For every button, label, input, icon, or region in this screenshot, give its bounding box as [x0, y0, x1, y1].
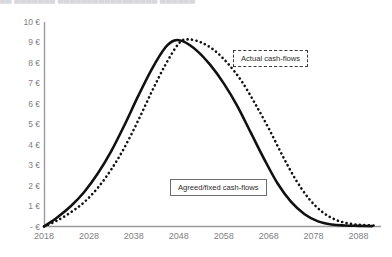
y-axis-tick-label: 6 €	[12, 99, 40, 109]
x-axis-tick-label: 2068	[246, 231, 292, 241]
legend-callout-actual-label: Actual cash-flows	[241, 54, 300, 63]
y-axis-tick-label: 10 €	[12, 17, 40, 27]
chart-plot-area	[0, 0, 392, 257]
y-axis-tick-label: 1 €	[12, 201, 40, 211]
x-axis-tick-label: 2058	[201, 231, 247, 241]
y-axis-tick-label: 8 €	[12, 58, 40, 68]
legend-callout-agreed-label: Agreed/fixed cash-flows	[178, 183, 259, 192]
legend-callout-agreed: Agreed/fixed cash-flows	[170, 179, 267, 196]
x-axis-tick-label: 2078	[291, 231, 337, 241]
y-axis-tick-label: 4 €	[12, 140, 40, 150]
x-axis-tick-label: 2028	[66, 231, 112, 241]
x-axis-tick-label: 2088	[336, 231, 382, 241]
y-axis-tick-label: 7 €	[12, 78, 40, 88]
y-axis-tick-label: 2 €	[12, 181, 40, 191]
x-axis-tick-label: 2048	[156, 231, 202, 241]
y-axis-tick-label: 9 €	[12, 37, 40, 47]
legend-callout-actual: Actual cash-flows	[233, 50, 308, 67]
y-axis-tick-labels: 10 €9 €8 €7 €6 €5 €4 €3 €2 €1 €- €	[8, 0, 40, 257]
x-axis-tick-label: 2038	[111, 231, 157, 241]
chart-series-group	[44, 39, 377, 226]
chart-container: ██ ███████ █████████████████ ██████ 10 €…	[0, 0, 392, 257]
chart-line-actual	[44, 39, 377, 226]
y-axis-tick-label: - €	[12, 222, 40, 232]
y-axis-tick-label: 5 €	[12, 119, 40, 129]
chart-line-agreed	[44, 40, 372, 227]
y-axis-tick-label: 3 €	[12, 160, 40, 170]
x-axis-tick-label: 2018	[21, 231, 67, 241]
